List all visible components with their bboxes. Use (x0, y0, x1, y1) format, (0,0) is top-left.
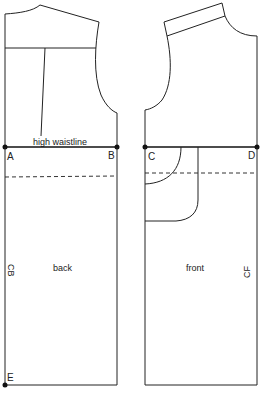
front-label: front (186, 263, 205, 273)
back-dart-line (41, 48, 45, 136)
back-neckline (5, 5, 40, 147)
front-neckline (225, 16, 257, 147)
point-d-label: D (248, 150, 255, 161)
point-c-label: C (148, 151, 155, 162)
point-e-dot (3, 383, 8, 388)
front-shoulder-band (164, 3, 225, 36)
front-armhole (145, 36, 170, 147)
back-label: back (53, 263, 73, 273)
pattern-diagram: high waistline A B E CB back C D CF (0, 0, 262, 397)
back-piece: high waistline A B E CB back (3, 5, 120, 388)
cb-label: CB (6, 264, 16, 277)
point-e-label: E (7, 372, 14, 383)
high-waistline-label: high waistline (33, 137, 87, 147)
front-piece: C D CF front (143, 3, 260, 385)
point-a-label: A (7, 151, 14, 162)
back-shoulder-line (40, 5, 99, 22)
back-hip-dashed-line (5, 176, 117, 177)
point-b-label: B (108, 150, 115, 161)
back-armhole (96, 22, 118, 147)
cf-label: CF (242, 266, 252, 278)
